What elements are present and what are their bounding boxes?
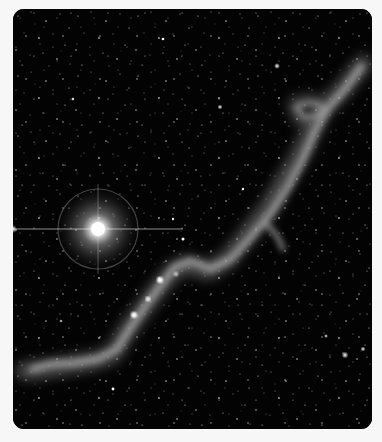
astronomy-photo [13,9,372,429]
nebula-image [13,9,372,429]
